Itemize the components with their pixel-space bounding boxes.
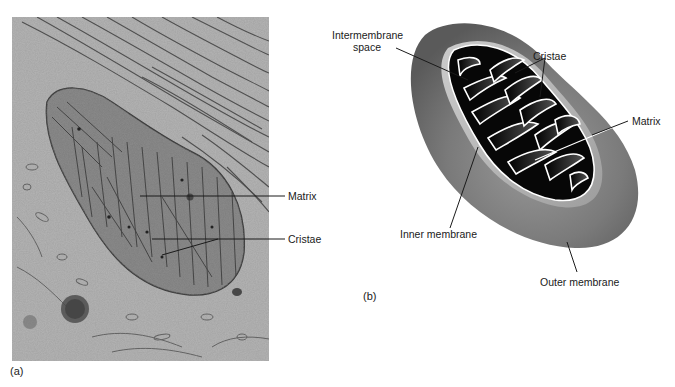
diagram-label-intermembrane-space: Intermembrane space	[332, 29, 402, 53]
micrograph-label-cristae: Cristae	[288, 233, 321, 245]
diagram-label-outer-membrane: Outer membrane	[540, 276, 619, 288]
diagram-label-inner-membrane: Inner membrane	[400, 228, 477, 240]
micrograph-label-matrix: Matrix	[288, 190, 317, 202]
cristae-leader-line-branch	[162, 239, 218, 255]
intermembrane-label-line1: Intermembrane	[332, 29, 402, 41]
diagram-label-cristae: Cristae	[533, 50, 566, 62]
panel-label-a: (a)	[10, 365, 23, 377]
diagram-label-matrix: Matrix	[632, 115, 661, 127]
panel-label-b: (b)	[363, 290, 376, 302]
intermembrane-label-line2: space	[332, 41, 402, 53]
